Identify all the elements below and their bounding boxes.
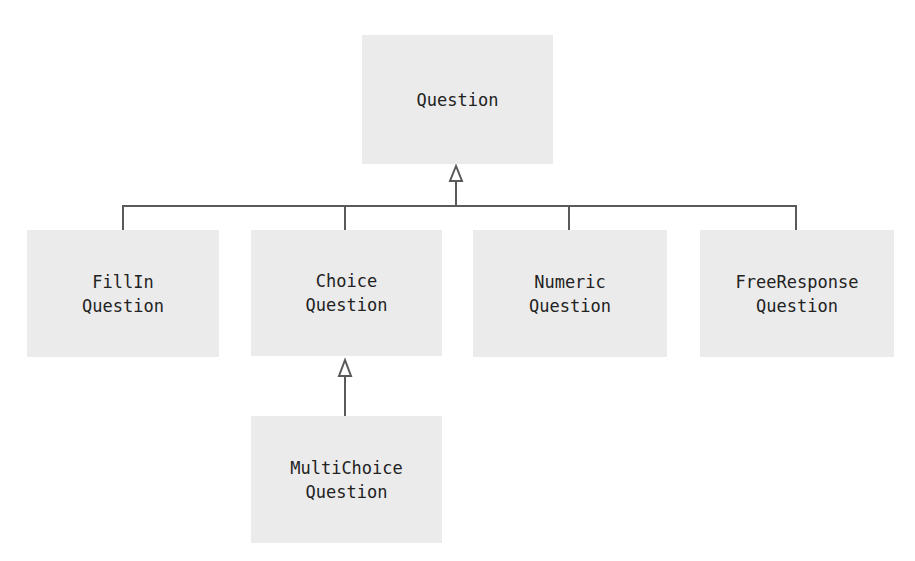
class-name-line1: Question [417, 88, 499, 112]
class-box-multichoice-question: MultiChoice Question [251, 416, 442, 543]
class-diagram: Question FillIn Question Choice Question… [0, 0, 915, 561]
class-box-question: Question [362, 35, 553, 164]
class-name-line2: Question [306, 293, 388, 317]
hollow-triangle-arrow-icon [450, 166, 462, 181]
class-name-line1: MultiChoice [290, 456, 403, 480]
class-name-line1: Numeric [534, 270, 606, 294]
class-name-line2: Question [306, 480, 388, 504]
class-name-line1: FillIn [92, 270, 153, 294]
class-name-line2: Question [529, 294, 611, 318]
class-name-line2: Question [756, 294, 838, 318]
class-box-freeresponse-question: FreeResponse Question [700, 230, 894, 357]
class-box-fillin-question: FillIn Question [27, 230, 219, 357]
class-box-numeric-question: Numeric Question [473, 230, 667, 357]
class-box-choice-question: Choice Question [251, 230, 442, 356]
class-name-line1: Choice [316, 269, 377, 293]
class-name-line2: Question [82, 294, 164, 318]
hollow-triangle-arrow-icon [339, 360, 351, 376]
class-name-line1: FreeResponse [736, 270, 859, 294]
question-inheritance-connector [123, 181, 797, 230]
